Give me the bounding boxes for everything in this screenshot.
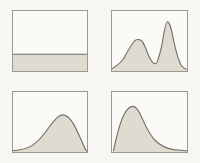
panel-left-skewed-distribution	[12, 91, 88, 153]
uniform-distribution-area	[13, 54, 87, 71]
uniform-distribution-plot	[13, 11, 87, 71]
distribution-shapes-figure	[0, 0, 200, 163]
bimodal-distribution-plot	[112, 11, 187, 71]
panel-right-skewed-distribution	[111, 91, 188, 153]
panel-bimodal-distribution	[111, 10, 188, 72]
right-skewed-distribution-area	[112, 106, 187, 152]
right-skewed-distribution-plot	[112, 92, 187, 152]
left-skewed-distribution-area	[13, 115, 87, 152]
bimodal-distribution-area	[112, 22, 187, 71]
panel-uniform-distribution	[12, 10, 88, 72]
left-skewed-distribution-plot	[13, 92, 87, 152]
